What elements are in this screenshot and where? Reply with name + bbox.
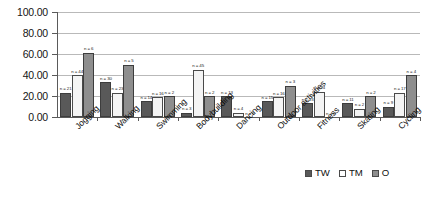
bar-value-label: n = 2 xyxy=(165,90,174,95)
bar-value-label: n = 14 xyxy=(140,95,152,100)
bar-value-label: n = 16 xyxy=(273,91,285,96)
bar-value-label: n = 4 xyxy=(407,69,416,74)
x-tick-mark xyxy=(380,117,381,121)
bar-value-label: n = 30 xyxy=(100,76,112,81)
bar-value-label: n = 44 xyxy=(71,69,83,74)
bar-value-label: n = 2 xyxy=(205,90,214,95)
legend-item-o: O xyxy=(372,168,389,178)
legend-swatch-icon xyxy=(339,170,346,177)
bar-tw xyxy=(342,103,353,117)
bar-value-label: n = 15 xyxy=(261,95,273,100)
bar-tw xyxy=(383,107,394,118)
bar-value-label: n = 5 xyxy=(124,58,133,63)
chart-legend: TWTMO xyxy=(305,168,389,178)
y-tick-label: 40.00 xyxy=(23,70,48,80)
bar-group: n = 30n = 23n = 5 xyxy=(97,12,137,117)
y-tick-label: 100.00 xyxy=(17,7,48,17)
y-tick-label: 60.00 xyxy=(23,49,48,59)
bar-value-label: n = 2 xyxy=(366,90,375,95)
bar-group: n = 11n = 2n = 2 xyxy=(339,12,379,117)
plot-area: n = 21n = 44n = 6n = 30n = 23n = 5n = 14… xyxy=(57,12,420,117)
bar-tm xyxy=(72,75,83,117)
bar-value-label: n = 4 xyxy=(234,106,243,111)
x-tick-mark xyxy=(138,117,139,121)
bar-tm xyxy=(394,93,405,117)
bar-tw xyxy=(60,93,71,117)
legend-label: TM xyxy=(349,168,363,178)
x-tick-mark xyxy=(259,117,260,121)
legend-swatch-icon xyxy=(372,170,379,177)
bar-group: n = 15n = 16n = 3 xyxy=(259,12,299,117)
bar-value-label: n = 23 xyxy=(112,86,124,91)
y-tick-label: 20.00 xyxy=(23,91,48,101)
bar-tm xyxy=(193,70,204,117)
x-tick-mark xyxy=(420,117,421,121)
bar-value-label: n = 45 xyxy=(192,63,204,68)
bar-group: n = 9n = 17n = 4 xyxy=(380,12,420,117)
bar-tm xyxy=(152,97,163,117)
y-tick-label: 0.00 xyxy=(28,112,48,122)
bar-tw xyxy=(100,82,111,117)
bar-group: n = 14n = 16n = 2 xyxy=(138,12,178,117)
bar-value-label: n = 21 xyxy=(60,86,72,91)
bar-group: n = 21n = 44n = 6 xyxy=(57,12,97,117)
bar-tm xyxy=(273,97,284,117)
x-tick-mark xyxy=(97,117,98,121)
legend-item-tw: TW xyxy=(305,168,330,178)
x-tick-mark xyxy=(299,117,300,121)
legend-label: O xyxy=(382,168,389,178)
bar-value-label: n = 6 xyxy=(84,46,93,51)
bar-tm xyxy=(112,93,123,117)
bar-value-label: n = 17 xyxy=(394,86,406,91)
x-tick-mark xyxy=(178,117,179,121)
legend-label: TW xyxy=(315,168,330,178)
bar-tw xyxy=(141,101,152,117)
bar-value-label: n = 2 xyxy=(355,102,364,107)
bar-value-label: n = 11 xyxy=(342,97,353,102)
legend-item-tm: TM xyxy=(339,168,363,178)
bar-value-label: n = 3 xyxy=(286,79,295,84)
bar-value-label: n = 16 xyxy=(152,91,164,96)
x-tick-mark xyxy=(339,117,340,121)
x-tick-mark xyxy=(218,117,219,121)
bar-tw xyxy=(262,101,273,117)
legend-swatch-icon xyxy=(305,170,312,177)
bar-chart: 100.0080.0060.0040.0020.000.00 n = 21n =… xyxy=(0,0,439,198)
bar-value-label: n = 9 xyxy=(384,100,393,105)
y-tick-label: 80.00 xyxy=(23,28,48,38)
y-axis-line xyxy=(57,12,58,118)
